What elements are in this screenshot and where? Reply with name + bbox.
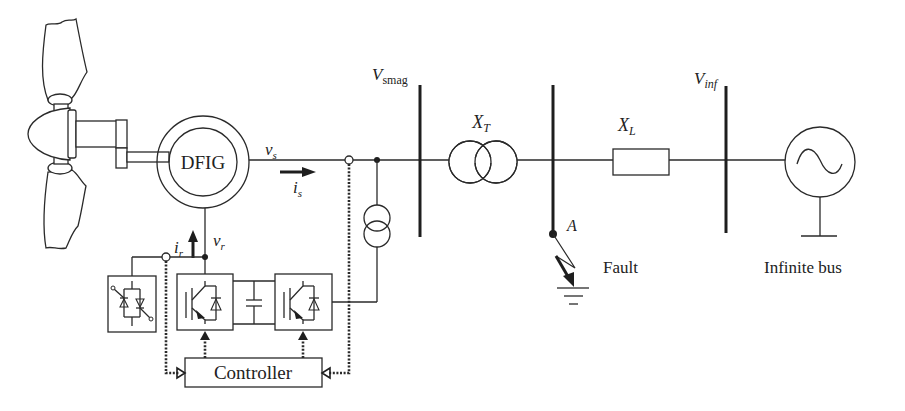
fault-lightning-icon: [553, 234, 575, 287]
dfig-machine: DFIG: [157, 116, 249, 208]
vr-label: vr: [213, 231, 226, 252]
fault-point-label: A: [566, 217, 577, 234]
is-arrow-icon: [280, 167, 316, 177]
xt-label: XT: [471, 112, 491, 135]
lower-blade: [44, 170, 86, 249]
ir-arrow-icon: [188, 230, 198, 258]
vinf-label: Vinf: [694, 69, 719, 91]
vs-label: vs: [265, 140, 277, 161]
xl-reactor: [613, 149, 669, 175]
rotor-measure-node: [162, 253, 170, 261]
dfig-label: DFIG: [181, 152, 226, 173]
rotor-side-converter: [177, 274, 233, 330]
gsc-transformer-coil-bottom: [364, 221, 390, 247]
infinite-bus-source: [785, 127, 855, 197]
signal-arrow-icon: [200, 331, 210, 340]
xl-label: XL: [617, 115, 636, 138]
wind-turbine: [28, 19, 169, 249]
signal-arrow-icon: [322, 368, 330, 378]
crowbar-thyristor-block: [108, 276, 156, 332]
control-signals: [166, 164, 349, 378]
dfig-single-line-diagram: DFIG vs is Vsmag XT A: [0, 0, 905, 411]
dc-link-capacitor: [233, 281, 275, 324]
hub-flange: [68, 110, 76, 158]
main-shaft: [76, 121, 118, 147]
gearbox-upper: [116, 120, 127, 148]
stator-measure-node: [345, 156, 353, 164]
rotor-junction: [202, 254, 208, 260]
infinite-bus-label: Infinite bus: [764, 258, 842, 277]
controller-label: Controller: [214, 362, 293, 383]
fault-label: Fault: [603, 258, 638, 277]
gsc-transformer-coil-top: [364, 205, 390, 231]
vsmag-label: Vsmag: [372, 65, 408, 87]
is-label: is: [293, 178, 302, 199]
ir-label: ir: [174, 238, 184, 259]
fault-ground-icon: [557, 288, 589, 304]
spinner-nose: [28, 108, 70, 160]
hs-shaft: [127, 152, 169, 162]
grid-side-converter: [275, 274, 332, 330]
signal-arrow-icon: [298, 331, 308, 340]
gearbox-lower: [116, 148, 127, 168]
upper-blade: [43, 19, 88, 100]
